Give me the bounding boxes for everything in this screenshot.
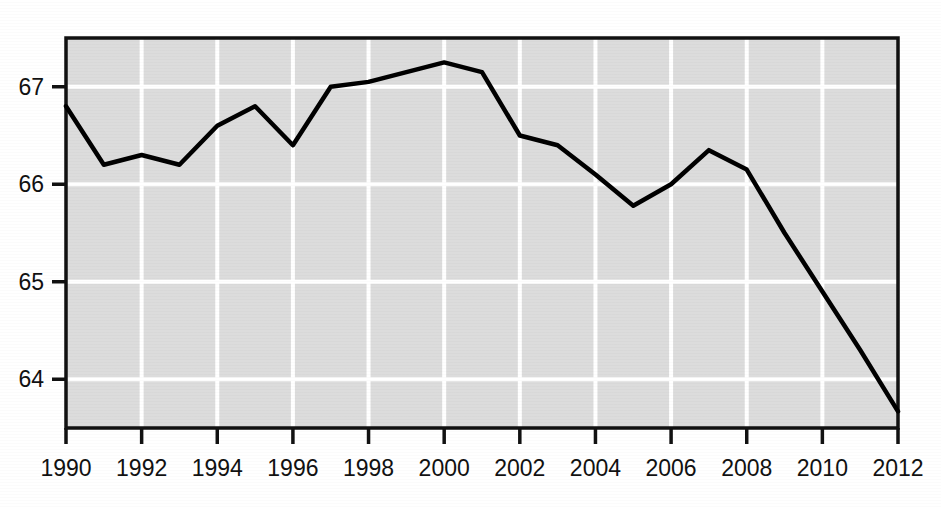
chart-canvas: 64656667 1990199219941996199820002002200…: [0, 0, 941, 507]
y-axis-tick-label: 64: [18, 366, 44, 392]
line-chart: 64656667 1990199219941996199820002002200…: [0, 0, 941, 507]
y-axis-tick-label: 65: [18, 269, 44, 295]
x-axis: 1990199219941996199820002002200420062008…: [40, 428, 923, 481]
x-axis-tick-label: 2012: [872, 455, 923, 481]
x-axis-tick-label: 2000: [419, 455, 470, 481]
x-axis-tick-label: 1996: [267, 455, 318, 481]
x-axis-tick-label: 2002: [494, 455, 545, 481]
x-axis-tick-label: 2004: [570, 455, 621, 481]
x-axis-tick-label: 2010: [797, 455, 848, 481]
y-axis-tick-label: 67: [18, 74, 44, 100]
x-axis-tick-label: 2006: [646, 455, 697, 481]
plot-background: [66, 38, 898, 428]
x-axis-tick-label: 2008: [721, 455, 772, 481]
y-axis-tick-label: 66: [18, 171, 44, 197]
x-axis-tick-label: 1994: [192, 455, 243, 481]
x-axis-tick-label: 1992: [116, 455, 167, 481]
x-axis-tick-label: 1990: [40, 455, 91, 481]
y-axis: 64656667: [18, 74, 66, 393]
x-axis-tick-label: 1998: [343, 455, 394, 481]
